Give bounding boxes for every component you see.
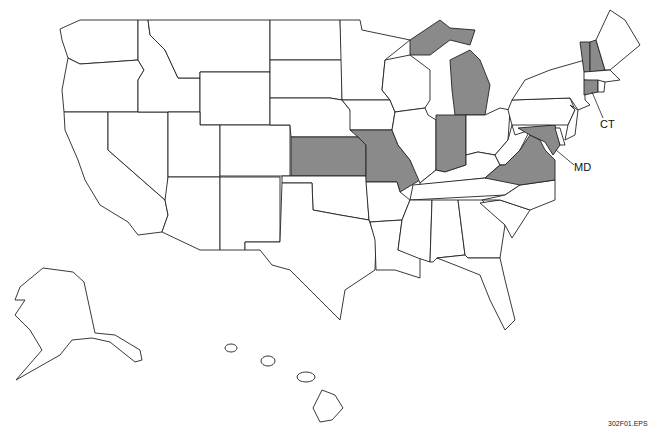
state-or [62, 58, 144, 112]
state-ct [584, 80, 598, 95]
state-wy [200, 72, 270, 125]
state-hi-maui [297, 372, 315, 382]
state-mi-lower [450, 50, 490, 115]
state-mi-upper [410, 20, 475, 55]
state-az [162, 177, 220, 250]
map-svg [0, 0, 661, 444]
state-hi-big [313, 390, 343, 422]
state-nd [270, 20, 342, 60]
ct-leader-line [592, 92, 603, 118]
ct-label: CT [600, 118, 615, 130]
state-ks [291, 137, 366, 176]
state-me [596, 10, 640, 70]
state-in [436, 115, 466, 172]
state-ak [15, 268, 142, 380]
state-nm [220, 177, 280, 250]
state-pa [508, 98, 575, 125]
md-leader-line [556, 150, 574, 165]
md-label: MD [574, 161, 591, 173]
state-ri [598, 80, 605, 92]
figure-id: 302F01.EPS [608, 420, 648, 427]
state-co [220, 125, 290, 176]
state-fl [437, 255, 515, 330]
state-wa [60, 20, 138, 64]
state-ia [342, 100, 395, 130]
state-hi-oahu [261, 356, 275, 366]
state-sd [270, 60, 342, 100]
us-map: CT MD 302F01.EPS [0, 0, 661, 444]
state-hi-kauai [225, 344, 237, 352]
